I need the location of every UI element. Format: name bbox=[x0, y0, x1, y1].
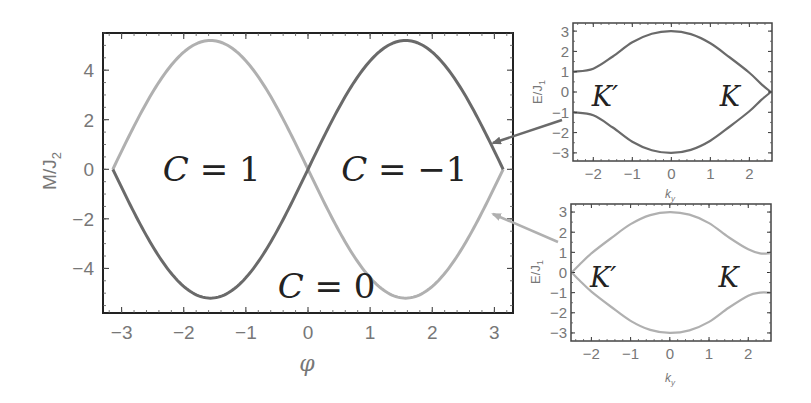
y-tick-label: 2 bbox=[83, 110, 94, 131]
valley-label: K′ bbox=[589, 262, 616, 293]
inset-bottom-y-axis-label: E/J1 bbox=[528, 260, 545, 284]
y-tick-label: −2 bbox=[550, 304, 567, 321]
chern-number-labels: C = 1C = −1C = 0 bbox=[163, 149, 468, 305]
x-tick-label: 1 bbox=[706, 165, 714, 182]
y-tick-label: −3 bbox=[550, 324, 567, 341]
inset-bottom-valley-labels: K′K bbox=[589, 262, 741, 293]
y-tick-label: 2 bbox=[561, 43, 569, 60]
y-tick-label: 1 bbox=[561, 63, 569, 80]
figure: −3−2−10123−4−2024 C = 1C = −1C = 0 φ M/J… bbox=[0, 0, 811, 403]
x-tick-label: 0 bbox=[667, 165, 675, 182]
y-tick-label: −4 bbox=[72, 258, 94, 279]
y-tick-label: −1 bbox=[552, 104, 569, 121]
y-tick-label: 1 bbox=[559, 244, 567, 261]
x-tick-label: −2 bbox=[583, 345, 600, 362]
main-plot: −3−2−10123−4−2024 C = 1C = −1C = 0 φ M/J… bbox=[39, 33, 513, 376]
x-tick-label: −2 bbox=[173, 322, 195, 343]
x-tick-label: −1 bbox=[624, 165, 641, 182]
y-tick-label: −2 bbox=[552, 124, 569, 141]
chern-label: C = −1 bbox=[341, 149, 467, 189]
x-tick-label: 2 bbox=[745, 165, 753, 182]
y-tick-label: −1 bbox=[550, 284, 567, 301]
x-tick-label: −1 bbox=[622, 345, 639, 362]
inset-top-plot: −2−1012−3−2−10123 K′K E/J1 ky bbox=[530, 23, 772, 203]
y-tick-label: 0 bbox=[83, 159, 94, 180]
x-tick-label: 0 bbox=[666, 345, 674, 362]
valley-label: K′ bbox=[591, 81, 618, 112]
arrow-1 bbox=[493, 214, 558, 242]
y-tick-label: 4 bbox=[83, 60, 94, 81]
x-tick-label: 1 bbox=[365, 322, 376, 343]
x-tick-label: 2 bbox=[744, 345, 752, 362]
x-tick-label: −1 bbox=[235, 322, 257, 343]
y-tick-label: 3 bbox=[559, 203, 567, 220]
inset-top-x-axis-label: ky bbox=[665, 187, 676, 203]
svg-text:E/J1: E/J1 bbox=[530, 80, 547, 104]
inset-top-y-axis-label: E/J1 bbox=[530, 80, 547, 104]
inset-top-valley-labels: K′K bbox=[591, 81, 742, 112]
inset-bottom-x-axis-label: ky bbox=[665, 371, 676, 387]
chern-label: C = 1 bbox=[163, 149, 261, 189]
x-tick-label: −3 bbox=[111, 322, 133, 343]
x-tick-label: 1 bbox=[705, 345, 713, 362]
main-y-axis-label: M/J2 bbox=[39, 152, 64, 190]
valley-label: K bbox=[719, 81, 742, 112]
x-tick-label: 3 bbox=[489, 322, 500, 343]
inset-bottom-plot: −2−1012−3−2−10123 K′K E/J1 ky bbox=[528, 203, 771, 387]
x-tick-label: 0 bbox=[303, 322, 314, 343]
main-x-axis-label: φ bbox=[299, 351, 315, 376]
y-tick-label: −2 bbox=[72, 209, 94, 230]
svg-text:M/J2: M/J2 bbox=[39, 152, 64, 190]
x-tick-label: −2 bbox=[585, 165, 602, 182]
svg-text:E/J1: E/J1 bbox=[528, 260, 545, 284]
y-tick-label: 2 bbox=[559, 224, 567, 241]
chern-label: C = 0 bbox=[278, 266, 376, 306]
y-tick-label: 3 bbox=[561, 23, 569, 40]
y-tick-label: 0 bbox=[561, 83, 569, 100]
y-tick-label: −3 bbox=[552, 144, 569, 161]
valley-label: K bbox=[718, 262, 741, 293]
y-tick-label: 0 bbox=[559, 264, 567, 281]
x-tick-label: 2 bbox=[427, 322, 438, 343]
